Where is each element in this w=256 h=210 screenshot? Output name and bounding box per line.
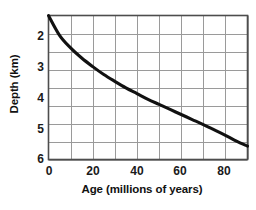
x-axis-title-wrap: Age (millions of years) [28, 183, 256, 205]
depth-curve [49, 16, 248, 147]
x-axis-title: Age (millions of years) [81, 183, 202, 195]
vertical-gridlines [72, 16, 249, 160]
depth-vs-age-chart: Depth (km) 2 3 4 5 6 0 20 40 60 80 Age (… [0, 0, 256, 210]
plot-area [0, 0, 256, 210]
plot-frame [49, 16, 248, 160]
